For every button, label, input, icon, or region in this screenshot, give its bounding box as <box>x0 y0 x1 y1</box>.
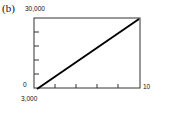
figure-panel: (b) 30,000 0 3,000 10 <box>0 0 175 117</box>
series-0-line <box>37 19 139 89</box>
plot-area <box>0 0 175 117</box>
y-axis-ticks <box>34 32 39 74</box>
data-series-line <box>37 19 139 89</box>
x-axis-ticks <box>55 84 118 88</box>
